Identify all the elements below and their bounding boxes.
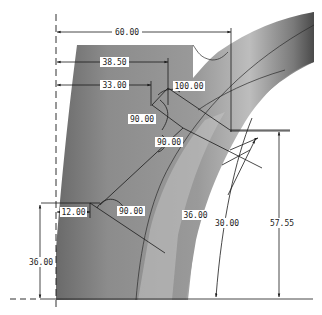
dim-label-90-a: 90.00	[130, 115, 154, 124]
solid-body	[10, 12, 314, 310]
dim-label-33: 33.00	[102, 81, 126, 90]
dim-36-vertical[interactable]: 36.00	[28, 257, 54, 267]
dim-90-a[interactable]: 90.00	[128, 114, 156, 124]
dim-label-100: 100.00	[175, 82, 204, 91]
dim-90-b[interactable]: 90.00	[155, 137, 183, 147]
dim-label-60: 60.00	[115, 28, 139, 37]
dim-30[interactable]: 30.00	[213, 218, 241, 228]
dim-label-38-50: 38.50	[102, 58, 126, 67]
dim-label-57-55: 57.55	[270, 219, 294, 228]
dim-33[interactable]: 33.00	[100, 80, 129, 90]
dim-label-36-aligned: 36.00	[183, 211, 207, 220]
dim-57-55[interactable]: 57.55	[268, 218, 296, 228]
dim-60[interactable]: 60.00	[112, 27, 142, 37]
dim-label-30: 30.00	[215, 219, 239, 228]
dim-label-12: 12.00	[61, 208, 85, 217]
dim-100[interactable]: 100.00	[173, 81, 205, 91]
dim-label-36-vertical: 36.00	[29, 258, 53, 267]
dim-label-90-b: 90.00	[157, 138, 181, 147]
cad-drawing-canvas[interactable]: 60.00 38.50 33.00 100.00 90.00 90.00 12.…	[0, 0, 322, 315]
dim-12[interactable]: 12.00	[60, 207, 87, 217]
dim-label-90-c: 90.00	[119, 207, 143, 216]
dim-38-50[interactable]: 38.50	[100, 57, 129, 67]
dim-90-c[interactable]: 90.00	[117, 206, 145, 216]
dim-36-aligned[interactable]: 36.00	[182, 210, 209, 220]
